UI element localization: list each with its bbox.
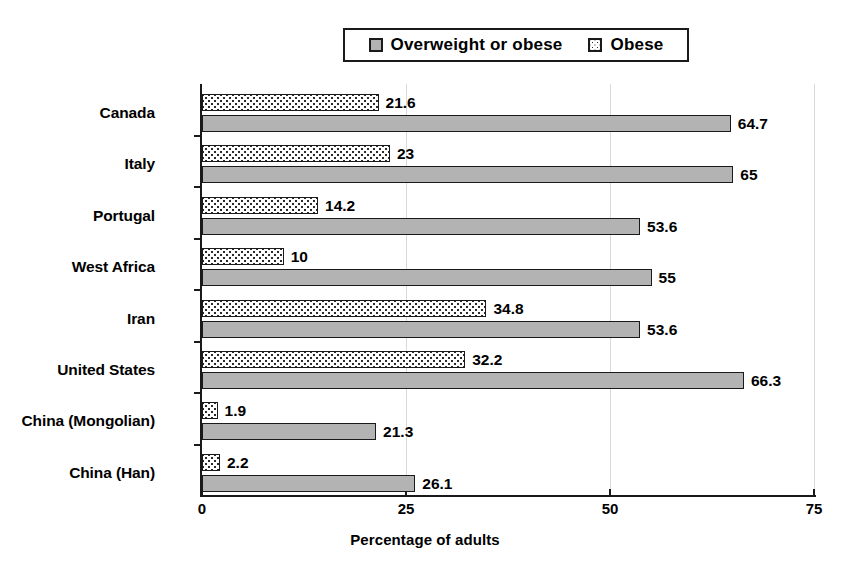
bar-obese [202,454,220,471]
bar-overweight-or-obese [202,218,640,235]
bar-value-overweight-or-obese: 64.7 [738,115,768,132]
bar-value-overweight-or-obese: 53.6 [647,218,677,235]
bar-obese [202,197,318,214]
category-label-iran: Iran [0,310,155,328]
y-axis-tick [194,238,201,240]
category-label-portugal: Portugal [0,207,155,225]
bar-value-obese: 21.6 [386,94,416,111]
bar-value-overweight-or-obese: 66.3 [751,372,781,389]
bar-overweight-or-obese [202,423,376,440]
y-axis-tick [194,444,201,446]
y-axis-tick [194,392,201,394]
bar-value-obese: 1.9 [225,402,247,419]
category-label-canada: Canada [0,104,155,122]
y-axis-tick [194,341,201,343]
bar-value-overweight-or-obese: 21.3 [383,423,413,440]
bar-value-obese: 34.8 [493,300,523,317]
y-axis-tick [194,289,201,291]
category-label-west-africa: West Africa [0,258,155,276]
bar-obese [202,351,465,368]
bar-value-overweight-or-obese: 55 [659,269,676,286]
category-label-united-states: United States [0,361,155,379]
bar-value-overweight-or-obese: 53.6 [647,321,677,338]
bar-value-overweight-or-obese: 65 [740,166,757,183]
x-axis-tick-label-25: 25 [386,500,426,517]
bar-overweight-or-obese [202,269,652,286]
x-axis-tick-label-50: 50 [590,500,630,517]
bar-value-obese: 14.2 [325,197,355,214]
bar-value-overweight-or-obese: 26.1 [422,475,452,492]
bar-obese [202,248,284,265]
x-axis-title: Percentage of adults [0,531,850,548]
bar-value-obese: 32.2 [472,351,502,368]
category-label-china-mongolian: China (Mongolian) [0,412,155,430]
bar-groups: Canada21.664.7Italy2365Portugal14.253.6W… [202,0,815,572]
bar-value-obese: 23 [397,145,414,162]
chart-container: Overweight or obese Obese Canada21.664.7… [0,0,850,572]
bar-value-obese: 2.2 [227,454,249,471]
y-axis-tick [194,186,201,188]
y-axis-tick [194,135,201,137]
bar-overweight-or-obese [202,475,415,492]
x-axis-tick-label-75: 75 [794,500,834,517]
bar-obese [202,300,486,317]
bar-overweight-or-obese [202,115,731,132]
bar-overweight-or-obese [202,166,733,183]
x-axis-tick-label-0: 0 [182,500,222,517]
category-label-italy: Italy [0,155,155,173]
bar-obese [202,94,379,111]
bar-overweight-or-obese [202,372,744,389]
bar-obese [202,402,218,419]
bar-value-obese: 10 [291,248,308,265]
category-label-china-han: China (Han) [0,464,155,482]
bar-obese [202,145,390,162]
bar-overweight-or-obese [202,321,640,338]
